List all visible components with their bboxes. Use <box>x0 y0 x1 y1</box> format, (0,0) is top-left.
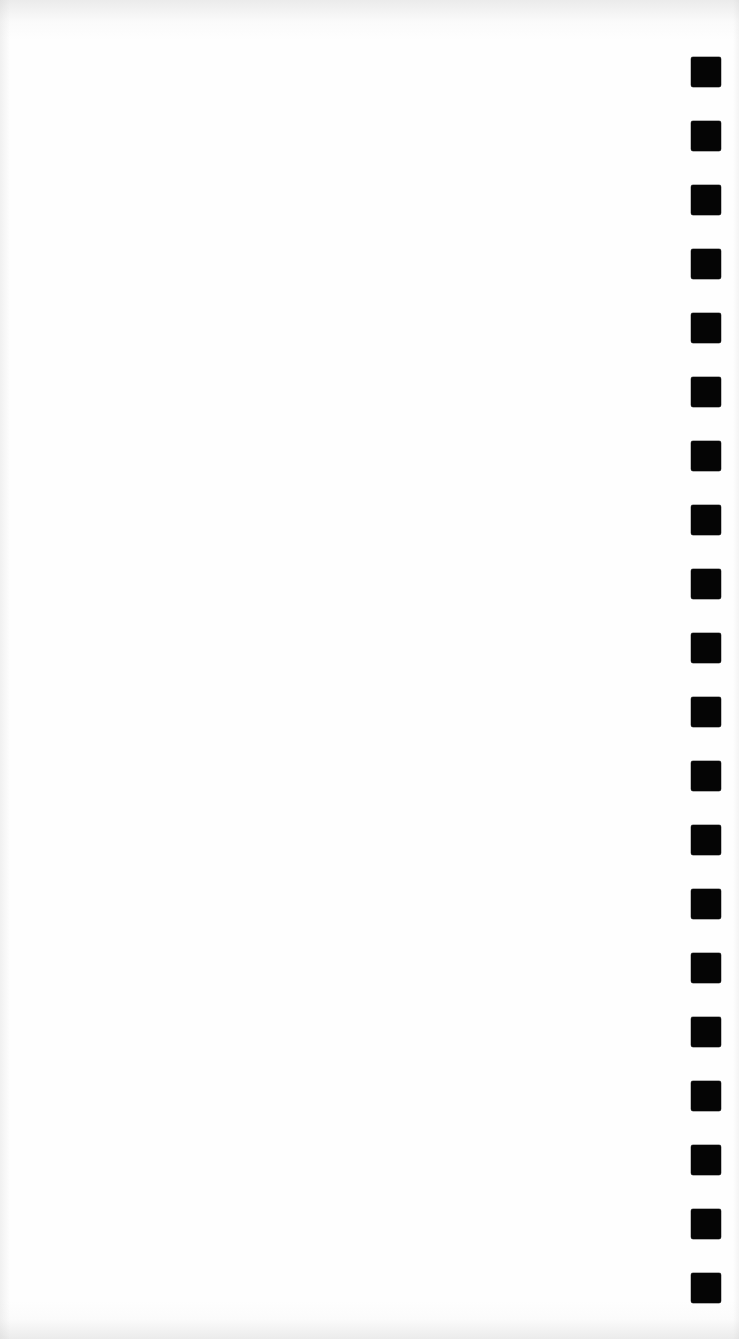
timing-mark <box>691 377 721 407</box>
timing-mark <box>691 1273 721 1303</box>
timing-mark <box>691 249 721 279</box>
timing-mark <box>691 697 721 727</box>
timing-mark <box>691 441 721 471</box>
timing-mark-column <box>691 0 721 1339</box>
timing-mark <box>691 1209 721 1239</box>
timing-mark <box>691 953 721 983</box>
timing-mark <box>691 569 721 599</box>
timing-mark <box>691 185 721 215</box>
timing-mark <box>691 825 721 855</box>
timing-mark <box>691 633 721 663</box>
timing-mark <box>691 1145 721 1175</box>
timing-mark <box>691 505 721 535</box>
timing-mark <box>691 121 721 151</box>
timing-mark <box>691 761 721 791</box>
timing-mark <box>691 313 721 343</box>
timing-mark <box>691 889 721 919</box>
timing-mark <box>691 57 721 87</box>
blank-content-area <box>0 0 680 1339</box>
scanned-page <box>0 0 739 1339</box>
timing-mark <box>691 1081 721 1111</box>
timing-mark <box>691 1017 721 1047</box>
